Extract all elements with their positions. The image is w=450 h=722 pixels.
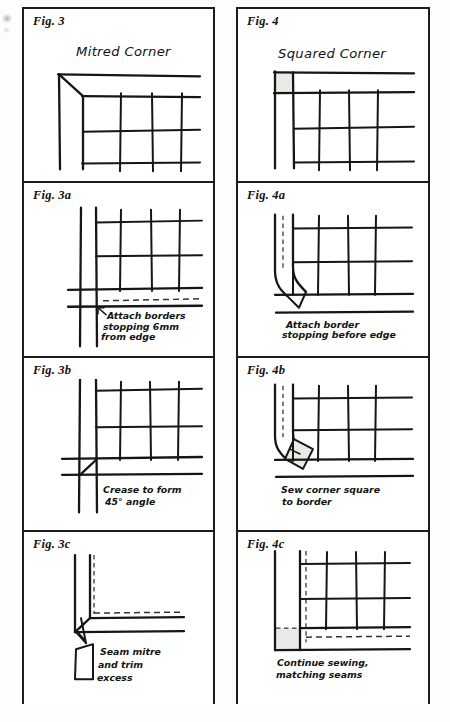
panel-fig-3: Fig. 3 Mitred Corner <box>24 9 213 183</box>
caption-line-2-fig-3a: stopping 6mm <box>103 321 179 332</box>
caption-line-2-fig-4a: stopping before edge <box>282 330 396 341</box>
panel-fig-4: Fig. 4 Squared Corner <box>238 9 428 183</box>
caption-line-2-fig-3b: 45° angle <box>104 496 155 507</box>
heading-mitred-corner: Mitred Corner <box>76 44 172 59</box>
caption-line-1-fig-3a: Attach borders <box>106 310 186 321</box>
figure-label-fig-4c: Fig. 4c <box>247 537 285 552</box>
figure-label-fig-3: Fig. 3 <box>33 14 65 29</box>
illustration-fig-3c: Seam mitre and trim excess <box>24 532 213 706</box>
caption-line-2-fig-4b: to border <box>282 495 333 506</box>
caption-line-1-fig-4b: Sew corner square <box>281 483 380 494</box>
illustration-fig-3: Mitred Corner <box>24 9 213 181</box>
illustration-fig-4a: Attach border stopping before edge <box>238 183 428 355</box>
caption-line-2-fig-3c: and trim <box>98 659 143 670</box>
caption-line-1-fig-4a: Attach border <box>285 319 361 330</box>
left-column-frame: Fig. 3 Mitred Corner <box>22 7 215 704</box>
right-column-frame: Fig. 4 Squared Corner <box>236 7 430 704</box>
panel-fig-3c: Fig. 3c Seam m <box>24 532 213 706</box>
figure-label-fig-4: Fig. 4 <box>247 14 279 29</box>
panel-fig-4c: Fig. 4c <box>238 532 428 706</box>
corner-square-fill <box>275 72 294 93</box>
heading-squared-corner: Squared Corner <box>278 47 387 62</box>
scan-artifact-mark <box>2 14 12 23</box>
panel-fig-3a: Fig. 3a <box>24 183 213 357</box>
illustration-fig-4c: Continue sewing, matching seams <box>238 532 428 706</box>
diagram-sheet: Fig. 3 Mitred Corner <box>0 0 450 722</box>
caption-line-3-fig-3a: from edge <box>101 332 155 343</box>
caption-line-1-fig-3c: Seam mitre <box>100 646 162 657</box>
illustration-fig-3a: Attach borders stopping 6mm from edge <box>24 183 213 355</box>
figure-label-fig-3a: Fig. 3a <box>33 188 71 203</box>
illustration-fig-4b: Sew corner square to border <box>238 358 428 530</box>
caption-line-2-fig-4c: matching seams <box>276 669 363 680</box>
figure-label-fig-3c: Fig. 3c <box>33 537 71 552</box>
corner-square-fill-fig-4c <box>275 628 300 650</box>
illustration-fig-4: Squared Corner <box>238 9 428 181</box>
panel-fig-4b: Fig. 4b <box>238 358 428 532</box>
figure-label-fig-3b: Fig. 3b <box>33 363 71 378</box>
panel-fig-4a: Fig. 4a Attach <box>238 183 428 357</box>
illustration-fig-3b: Crease to form 45° angle <box>24 358 213 530</box>
caption-line-1-fig-4c: Continue sewing, <box>277 657 369 668</box>
figure-label-fig-4b: Fig. 4b <box>247 363 285 378</box>
caption-line-1-fig-3b: Crease to form <box>103 483 182 494</box>
figure-label-fig-4a: Fig. 4a <box>247 188 285 203</box>
caption-line-3-fig-3c: excess <box>97 672 133 683</box>
scan-artifact-mark-secondary <box>3 27 10 33</box>
panel-fig-3b: Fig. 3b Crease to form 45° angle <box>24 358 213 532</box>
